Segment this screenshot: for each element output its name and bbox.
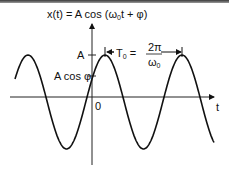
label-A-cos-phi: A cos φ	[54, 70, 91, 82]
chart-title: x(t) = A cos (ω0t + φ)	[47, 8, 147, 24]
sinusoid-plot	[0, 0, 229, 171]
label-origin: 0	[95, 100, 101, 112]
label-A: A	[77, 49, 84, 61]
label-period-denominator: ω0	[148, 56, 161, 72]
label-t-axis: t	[216, 101, 219, 113]
cosine-curve	[15, 55, 214, 149]
label-period: T0 =	[116, 47, 136, 63]
label-period-numerator: 2π	[148, 41, 162, 53]
diagram: x(t) = A cos (ω0t + φ) A A cos φ 0 t T0 …	[0, 0, 229, 171]
